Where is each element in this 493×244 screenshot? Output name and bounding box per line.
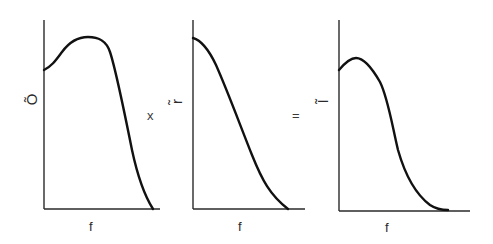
multiply-operator: x bbox=[147, 109, 154, 122]
ylabel-image: Ĩ bbox=[315, 99, 330, 103]
ylabel-object: Õ bbox=[24, 94, 39, 106]
response-spectrum-curve bbox=[193, 38, 288, 209]
xlabel-object: f bbox=[89, 220, 93, 233]
equals-operator: = bbox=[292, 109, 300, 122]
plot-image-spectrum bbox=[339, 20, 470, 211]
xlabel-image: f bbox=[385, 221, 389, 234]
spectrum-product-diagram: Õ r̃ Ĩ f f f x = bbox=[0, 0, 493, 244]
plots-canvas bbox=[0, 0, 493, 244]
plot-response-spectrum bbox=[193, 20, 305, 209]
image-spectrum-curve bbox=[339, 58, 448, 210]
plot-object-spectrum bbox=[44, 20, 160, 209]
object-spectrum-curve bbox=[44, 37, 153, 209]
xlabel-response: f bbox=[238, 220, 242, 233]
ylabel-response: r̃ bbox=[169, 99, 184, 104]
